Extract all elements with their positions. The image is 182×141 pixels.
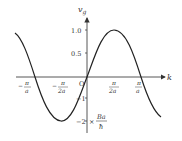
y-tick-label-neg1: −1 bbox=[76, 95, 86, 103]
unit-denominator: ħ bbox=[99, 123, 103, 131]
x-tick-pi-a: π a bbox=[135, 79, 142, 94]
svg-text:−: − bbox=[52, 82, 57, 89]
x-tick-neg-pi-a: − π a bbox=[18, 79, 31, 94]
velocity-curve bbox=[15, 30, 161, 121]
svg-text:a: a bbox=[136, 87, 140, 94]
y-tick-label-1: 1.0 bbox=[71, 27, 81, 35]
origin-label: O bbox=[79, 80, 84, 88]
svg-text:π: π bbox=[111, 79, 117, 86]
svg-text:a: a bbox=[25, 87, 29, 94]
x-axis-label: k bbox=[167, 73, 172, 82]
unit-times: × bbox=[89, 118, 94, 126]
svg-text:−: − bbox=[18, 82, 23, 89]
svg-text:π: π bbox=[24, 79, 30, 86]
y-tick-label-neg2: −2 bbox=[76, 118, 86, 126]
x-tick-pi-2a: π 2a bbox=[108, 79, 119, 94]
svg-text:π: π bbox=[60, 79, 66, 86]
x-tick-neg-pi-2a: − π 2a bbox=[52, 79, 68, 94]
svg-text:π: π bbox=[136, 79, 142, 86]
y-tick-label-0.5: 0.5 bbox=[71, 50, 81, 58]
svg-text:2a: 2a bbox=[57, 87, 66, 94]
unit-numerator: Ba bbox=[96, 113, 106, 121]
svg-text:2a: 2a bbox=[108, 87, 117, 94]
y-axis-label: vg bbox=[78, 5, 87, 16]
group-velocity-chart: vg 1.0 0.5 −1 −2 × Ba ħ k O − π a − π 2a… bbox=[0, 0, 182, 141]
